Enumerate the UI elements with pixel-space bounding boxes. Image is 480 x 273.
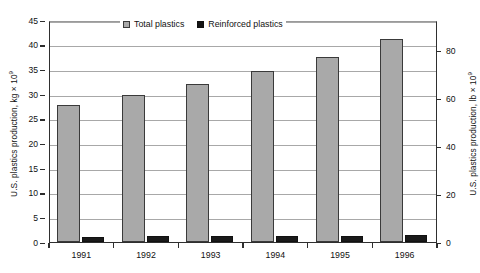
- x-axis-label-1995: 1995: [312, 250, 368, 260]
- x-axis-tickmark: [113, 243, 114, 248]
- gridline: [50, 46, 436, 47]
- legend-item-reinforced-plastics: Reinforced plastics: [197, 19, 282, 29]
- y-axis-left-tick-label-30: 30: [16, 90, 38, 100]
- x-axis-tickmark: [436, 243, 437, 248]
- y-axis-left-tick-label-10: 10: [16, 188, 38, 198]
- y-axis-right-tick-label-0: 0: [446, 238, 468, 248]
- y-axis-left-tick-label-25: 25: [16, 114, 38, 124]
- legend-item-total-plastics: Total plastics: [123, 19, 184, 29]
- legend-swatch-total-icon: [123, 21, 130, 28]
- gridline: [50, 170, 436, 171]
- y-axis-left-tick-label-15: 15: [16, 164, 38, 174]
- y-axis-left-ticks: 051015202530354045: [16, 0, 38, 273]
- y-axis-left-tick-label-40: 40: [16, 40, 38, 50]
- gridline: [50, 96, 436, 97]
- bar-reinforced-plastics-1991: [82, 237, 104, 242]
- bar-reinforced-plastics-1996: [405, 235, 427, 242]
- plastics-production-bar-chart: U.S. plastics production, kg × 109 U.S. …: [0, 0, 480, 273]
- y-axis-left-tickmark: [40, 45, 45, 46]
- y-axis-left-tickmark: [40, 119, 45, 120]
- x-axis-tickmark: [372, 243, 373, 248]
- gridline: [50, 145, 436, 146]
- x-axis-tickmark: [48, 243, 49, 248]
- bar-total-plastics-1996: [380, 39, 403, 242]
- y-axis-left-tickmark: [40, 243, 45, 244]
- y-axis-right-tick-label-20: 20: [446, 190, 468, 200]
- legend-label-reinforced: Reinforced plastics: [208, 19, 282, 29]
- x-axis-tickmark: [242, 243, 243, 248]
- y-axis-left-tickmark: [40, 95, 45, 96]
- y-axis-right-tick-label-40: 40: [446, 142, 468, 152]
- x-axis-label-1991: 1991: [53, 250, 109, 260]
- y-axis-left-title-exponent: 9: [7, 71, 14, 75]
- x-axis-tickmark: [307, 243, 308, 248]
- y-axis-left-tickmark: [40, 193, 45, 194]
- y-axis-left-tick-label-20: 20: [16, 139, 38, 149]
- chart-legend: Total plastics Reinforced plastics: [120, 19, 286, 29]
- legend-swatch-reinforced-icon: [197, 21, 204, 28]
- x-axis-label-1992: 1992: [118, 250, 174, 260]
- gridline: [50, 219, 436, 220]
- bar-total-plastics-1992: [122, 95, 145, 242]
- legend-label-total: Total plastics: [134, 19, 184, 29]
- bar-total-plastics-1993: [186, 84, 209, 242]
- bar-total-plastics-1995: [316, 57, 339, 242]
- y-axis-left-tickmark: [40, 169, 45, 170]
- y-axis-left-tick-label-45: 45: [16, 16, 38, 26]
- y-axis-left-tickmark: [40, 70, 45, 71]
- x-axis-label-1993: 1993: [183, 250, 239, 260]
- gridline: [50, 194, 436, 195]
- y-axis-left-tick-label-5: 5: [16, 213, 38, 223]
- y-axis-left-tickmark: [40, 218, 45, 219]
- bar-reinforced-plastics-1993: [211, 236, 233, 242]
- x-axis-tickmark: [178, 243, 179, 248]
- y-axis-right-title-exponent: 9: [466, 72, 473, 76]
- y-axis-right-title-text: U.S. plastics production, lb × 10: [468, 76, 478, 196]
- bar-reinforced-plastics-1994: [276, 236, 298, 242]
- y-axis-right-ticks: 020406080: [440, 0, 462, 273]
- y-axis-left-tickmark: [40, 144, 45, 145]
- gridline: [50, 120, 436, 121]
- bar-reinforced-plastics-1992: [147, 236, 169, 242]
- y-axis-left-tick-label-0: 0: [16, 238, 38, 248]
- bar-reinforced-plastics-1995: [341, 236, 363, 242]
- x-axis-label-1996: 1996: [377, 250, 433, 260]
- y-axis-left-tickmark: [40, 21, 45, 22]
- plot-area: [49, 21, 437, 243]
- bar-total-plastics-1991: [57, 105, 80, 242]
- gridline: [50, 71, 436, 72]
- y-axis-right-tick-label-80: 80: [446, 46, 468, 56]
- x-axis-label-1994: 1994: [247, 250, 303, 260]
- y-axis-left-tick-label-35: 35: [16, 65, 38, 75]
- bar-total-plastics-1994: [251, 71, 274, 242]
- y-axis-right-tick-label-60: 60: [446, 94, 468, 104]
